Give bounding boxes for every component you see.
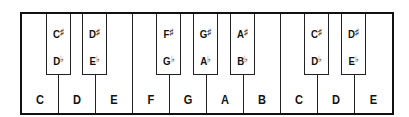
flat-label: E♭ [84,55,104,67]
flat-label: A♭ [195,55,215,67]
flat-icon: ♭ [318,54,322,64]
sharp-icon: ♯ [60,27,64,37]
white-key-label: A [210,92,241,107]
white-key-label: E [358,92,389,107]
sharp-label: F♯ [158,28,178,40]
white-key-label: B [247,92,278,107]
black-key-c-sharp: C♯ D♭ [304,14,329,75]
flat-label: G♭ [158,55,178,67]
flat-icon: ♭ [207,54,211,64]
white-key-label: F [136,92,167,107]
flat-label: E♭ [343,55,363,67]
white-key-label: C [25,92,56,107]
sharp-icon: ♯ [96,27,100,37]
flat-label: D♭ [48,55,68,67]
flat-icon: ♭ [171,54,175,64]
black-key-d-sharp: D♯ E♭ [82,14,107,75]
sharp-label: A♯ [232,28,252,40]
white-key-label: D [321,92,352,107]
piano-keyboard: C D E F G A B C D E C♯ D♭ D♯ E♭ F♯ G♭ G♯… [20,12,394,115]
sharp-label: D♯ [84,28,104,40]
flat-icon: ♭ [244,54,248,64]
black-key-c-sharp: C♯ D♭ [46,14,71,75]
sharp-icon: ♯ [169,27,173,37]
white-key-label: D [62,92,93,107]
sharp-label: G♯ [195,28,215,40]
white-key-label: G [173,92,204,107]
sharp-icon: ♯ [318,27,322,37]
sharp-icon: ♯ [207,27,211,37]
sharp-icon: ♯ [355,27,359,37]
black-key-a-sharp: A♯ B♭ [230,14,255,75]
black-key-d-sharp: D♯ E♭ [341,14,366,75]
white-key-label: E [99,92,130,107]
flat-icon: ♭ [355,54,359,64]
flat-icon: ♭ [60,54,64,64]
flat-icon: ♭ [96,54,100,64]
black-key-g-sharp: G♯ A♭ [193,14,218,75]
flat-label: B♭ [232,55,252,67]
flat-label: D♭ [306,55,326,67]
sharp-label: D♯ [343,28,363,40]
white-key-label: C [284,92,315,107]
black-key-f-sharp: F♯ G♭ [156,14,181,75]
sharp-label: C♯ [306,28,326,40]
sharp-label: C♯ [48,28,68,40]
sharp-icon: ♯ [244,27,248,37]
